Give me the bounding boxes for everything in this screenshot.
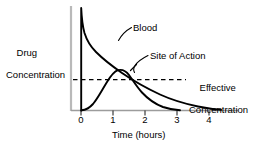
- x-tick-label-4: 4: [202, 114, 216, 125]
- site-of-action-series-label: Site of Action: [150, 50, 205, 61]
- effective-concentration-label-line1: Effective: [200, 82, 236, 93]
- x-axis-label: Time (hours): [112, 129, 166, 140]
- effective-concentration-label-line2: Concentration: [189, 104, 248, 115]
- x-tick-label-3: 3: [170, 114, 184, 125]
- y-axis-label: Drug Concentration: [6, 36, 68, 102]
- site-of-action-leader-line: [134, 56, 148, 73]
- x-tick-label-2: 2: [138, 114, 152, 125]
- effective-concentration-label: Effective Concentration: [189, 71, 248, 137]
- x-tick-label-0: 0: [74, 114, 88, 125]
- x-tick-label-1: 1: [106, 114, 120, 125]
- blood-series-label: Blood: [133, 22, 157, 33]
- blood-leader-line: [119, 28, 132, 41]
- y-axis-label-line2: Concentration: [6, 69, 68, 80]
- drug-concentration-chart: Drug Concentration Blood Site of Action …: [0, 0, 253, 147]
- site-of-action-curve: [82, 70, 181, 110]
- y-axis-label-line1: Drug: [17, 47, 38, 58]
